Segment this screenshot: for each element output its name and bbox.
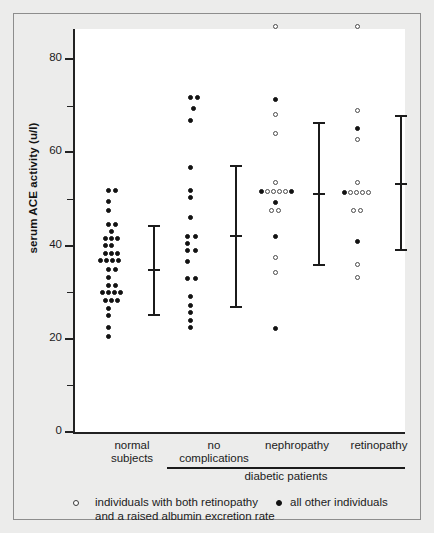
open-circle-marker [73,500,79,506]
data-point-filled [106,267,111,272]
data-point-filled [106,188,111,193]
data-point-filled [273,326,278,331]
data-point-filled [106,334,111,339]
data-point-open [276,208,281,213]
data-point-open [355,108,360,113]
diabetic-patients-bracket [167,467,405,469]
data-point-open [355,24,360,29]
y-axis-title: serum ACE activity (u/l) [27,93,39,283]
y-tick-minor [67,199,73,200]
data-point-filled [188,165,193,170]
data-point-filled [113,188,118,193]
legend-entry-filled: all other individuals [290,496,430,510]
y-tick-major [65,245,73,247]
data-point-filled [342,190,347,195]
error-bar [148,0,160,440]
x-category-label-line1: no [208,439,221,451]
data-point-filled [185,241,190,246]
data-point-filled [113,283,118,288]
x-category-label-line1: normal [114,439,149,451]
error-bar [230,0,242,440]
data-point-open [354,190,359,195]
data-point-filled [106,283,111,288]
data-point-filled [185,276,190,281]
data-point-open [351,208,356,213]
error-bar-mean-tick [230,235,242,237]
data-point-open [358,208,363,213]
data-point-filled [103,298,108,303]
data-point-filled [109,298,114,303]
error-bar-mean-tick [395,183,407,185]
data-point-open [273,255,278,260]
y-tick-major [65,151,73,153]
data-point-filled [185,248,190,253]
error-bar-cap-lower [230,306,242,308]
data-point-open [366,190,371,195]
y-tick-label: 0 [22,424,62,436]
y-axis-line [73,29,75,433]
error-bar-cap-lower [148,314,160,316]
figure-container: serum ACE activity (u/l) 020406080 norma… [0,0,434,533]
data-point-filled [113,267,118,272]
y-tick-major [65,338,73,340]
error-bar-cap-upper [395,115,407,117]
y-tick-major [65,431,73,433]
y-tick-minor [67,292,73,293]
x-category-label-line1: nephropathy [265,439,329,451]
error-bar-cap-upper [148,225,160,227]
data-point-filled [103,251,108,256]
y-tick-minor [67,385,73,386]
x-category-label-retinopathy: retinopathy [329,439,429,452]
data-point-open [273,270,278,275]
data-point-open [355,262,360,267]
data-point-open [360,190,365,195]
data-point-filled [106,306,111,311]
y-tick-label: 40 [22,238,62,250]
y-tick-major [65,58,73,60]
legend-open-label-line1: individuals with both retinopathy [95,496,258,508]
data-point-filled [188,188,193,193]
data-point-filled [188,195,193,200]
data-point-filled [115,251,120,256]
data-point-filled [185,234,190,239]
data-point-open [269,208,274,213]
error-bar-cap-upper [313,122,325,124]
data-point-filled [115,298,120,303]
y-tick-minor [67,106,73,107]
diabetic-patients-label: diabetic patients [167,470,405,482]
y-tick-label: 20 [22,331,62,343]
x-category-label-line1: retinopathy [351,439,408,451]
data-point-open [273,24,278,29]
data-point-filled [191,106,196,111]
legend-open-label-line2: and a raised albumin excretion rate [95,510,275,522]
data-point-filled [273,234,278,239]
data-point-filled [193,248,198,253]
data-point-filled [193,276,198,281]
error-bar [395,0,407,440]
data-point-filled [106,208,111,213]
legend-filled-label: all other individuals [290,496,388,508]
data-point-open [355,137,360,142]
data-point-filled [193,234,198,239]
data-point-filled [106,222,111,227]
data-point-filled [109,229,114,234]
data-point-filled [188,318,193,323]
error-bar-cap-lower [313,264,325,266]
data-point-filled [195,95,200,100]
y-tick-label: 60 [22,144,62,156]
error-bar-mean-tick [148,269,160,271]
data-point-open [348,190,353,195]
error-bar-mean-tick [313,193,325,195]
error-bar-cap-lower [395,249,407,251]
data-point-filled [188,95,193,100]
data-point-filled [113,222,118,227]
data-point-filled [109,251,114,256]
filled-circle-marker [276,500,282,506]
y-tick-label: 80 [22,51,62,63]
data-point-filled [188,303,193,308]
x-category-label-line2: complications [164,452,264,465]
error-bar [313,0,325,440]
data-point-filled [188,118,193,123]
data-point-filled [188,215,193,220]
error-bar-cap-upper [230,165,242,167]
